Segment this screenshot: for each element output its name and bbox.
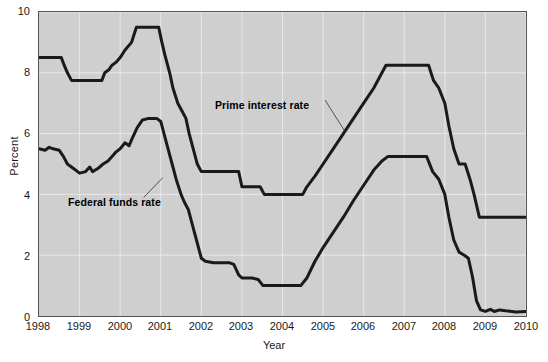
interest-rate-chart: Percent 10 8 6 4 2 0 1998 1999 2000 2001… <box>0 0 548 362</box>
x-axis-title: Year <box>0 339 548 351</box>
y-tick-label-10: 10 <box>0 6 30 16</box>
gridlines <box>39 12 526 316</box>
plot-area <box>38 11 527 317</box>
y-tick-label-8: 8 <box>0 67 30 77</box>
plot-canvas <box>39 12 526 316</box>
y-tick-label-6: 6 <box>0 128 30 138</box>
prime-interest-rate-label-leader <box>325 100 345 132</box>
federal-funds-rate-label: Federal funds rate <box>68 196 161 208</box>
y-tick-label-4: 4 <box>0 190 30 200</box>
y-tick-label-2: 2 <box>0 251 30 261</box>
annotation-leader-lines <box>144 100 346 197</box>
prime-interest-rate-label: Prime interest rate <box>215 99 309 111</box>
x-tick-label-2010: 2010 <box>502 321 548 332</box>
